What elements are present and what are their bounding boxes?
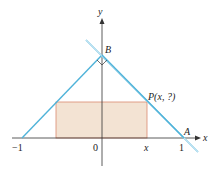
y-axis-label: y [97,6,103,17]
point-B-label: B [105,44,111,55]
y-axis-arrow-icon [100,18,105,24]
tick-label-x: x [143,142,149,153]
tick-label-one: 1 [179,142,184,153]
point-P-label: P(x, ?) [147,91,176,103]
diagram: y x B A P(x, ?) −1 0 x 1 [0,0,219,174]
inscribed-rectangle [56,102,147,138]
point-A-label: A [183,126,191,137]
x-axis-label: x [202,132,208,143]
tick-label-zero: 0 [93,142,98,153]
tick-label-neg-one: −1 [12,142,23,153]
x-axis-arrow-icon [195,136,201,141]
